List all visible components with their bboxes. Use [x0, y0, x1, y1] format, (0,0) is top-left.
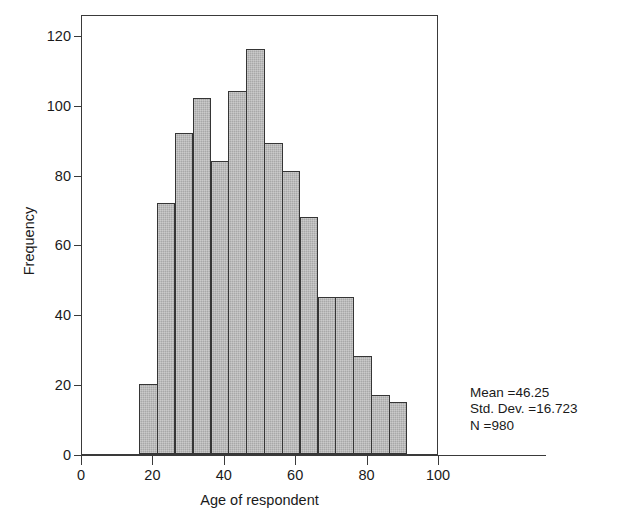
y-axis-tick-label: 20	[55, 378, 71, 393]
y-axis-tick	[74, 176, 81, 177]
histogram-bar	[228, 91, 246, 454]
histogram-bar	[371, 395, 389, 454]
x-axis-tick-label: 80	[337, 468, 397, 483]
x-axis-tick	[295, 456, 296, 465]
y-axis-tick	[74, 106, 81, 107]
x-axis-tick	[224, 456, 225, 465]
y-axis-tick	[74, 245, 81, 246]
statistics-annotation: Mean =46.25 Std. Dev. =16.723 N =980	[470, 385, 577, 434]
histogram-bar	[335, 297, 353, 454]
histogram-bar	[211, 161, 229, 454]
stat-n: N =980	[470, 418, 577, 434]
x-axis-tick-label: 40	[194, 468, 254, 483]
x-axis-tick-label: 60	[265, 468, 325, 483]
x-axis-line	[74, 455, 546, 456]
histogram-figure: 020406080100120020406080100 Frequency Ag…	[0, 0, 627, 522]
histogram-bar	[193, 98, 211, 454]
histogram-bar	[389, 402, 407, 454]
y-axis-tick-label: 120	[47, 29, 71, 44]
histogram-bar	[264, 143, 282, 454]
histogram-bar	[139, 384, 157, 454]
y-axis-tick-label: 40	[55, 308, 71, 323]
y-axis-tick-label: 0	[63, 448, 71, 463]
x-axis-tick	[367, 456, 368, 465]
histogram-bar	[157, 203, 175, 454]
y-axis-title: Frequency	[21, 176, 37, 306]
histogram-bar	[246, 49, 264, 454]
x-axis-tick	[81, 456, 82, 465]
histogram-bar	[300, 217, 318, 454]
y-axis-tick	[74, 315, 81, 316]
histogram-bar	[353, 356, 371, 454]
histogram-bar	[318, 297, 336, 454]
y-axis-tick-label: 60	[55, 238, 71, 253]
x-axis-tick	[438, 456, 439, 465]
stat-mean: Mean =46.25	[470, 385, 577, 401]
y-axis-tick-label: 80	[55, 169, 71, 184]
x-axis-tick	[152, 456, 153, 465]
histogram-bar	[175, 133, 193, 454]
y-axis-tick	[74, 36, 81, 37]
x-axis-tick-label: 100	[408, 468, 468, 483]
x-axis-tick-label: 20	[122, 468, 182, 483]
x-axis-title: Age of respondent	[81, 492, 438, 508]
stat-std-dev: Std. Dev. =16.723	[470, 401, 577, 417]
y-axis-tick	[74, 385, 81, 386]
y-axis-tick-label: 100	[47, 99, 71, 114]
plot-frame	[81, 15, 438, 455]
histogram-bar	[282, 171, 300, 454]
plot-area	[82, 16, 437, 454]
x-axis-tick-label: 0	[51, 468, 111, 483]
